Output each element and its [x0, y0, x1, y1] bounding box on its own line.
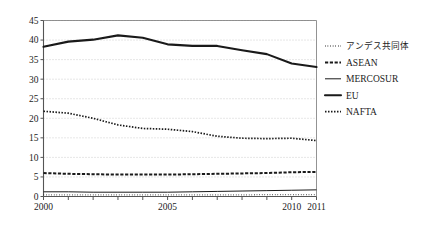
- legend-label: EU: [346, 91, 359, 101]
- legend-label: アンデス共同体: [346, 40, 409, 51]
- legend-label: MERCOSUR: [346, 74, 399, 84]
- y-tick-label: 45: [29, 16, 39, 26]
- series-line-nafta: [44, 111, 317, 140]
- series-line-mercosur: [44, 190, 317, 192]
- y-tick-label: 15: [29, 133, 39, 143]
- x-tick-label: 2000: [34, 202, 53, 212]
- legend-label: NAFTA: [346, 107, 377, 117]
- chart-figure: 0510152025303540452000200520102011アンデス共同…: [0, 0, 432, 235]
- y-tick-label: 35: [29, 55, 39, 65]
- x-axis: 2000200520102011: [34, 197, 326, 212]
- x-tick-label: 2005: [158, 202, 177, 212]
- series-line-asean: [44, 172, 317, 175]
- y-tick-label: 0: [34, 192, 39, 202]
- y-tick-label: 30: [29, 75, 39, 85]
- legend: アンデス共同体ASEANMERCOSUREUNAFTA: [325, 40, 409, 117]
- y-tick-label: 25: [29, 94, 39, 104]
- x-tick-label: 2010: [282, 202, 301, 212]
- series-group: [44, 35, 317, 195]
- y-tick-label: 10: [29, 153, 39, 163]
- grid-lines: [44, 21, 317, 177]
- y-tick-label: 20: [29, 114, 39, 124]
- series-line-eu: [44, 35, 317, 67]
- y-tick-label: 40: [29, 35, 39, 45]
- y-axis: 051015202530354045: [29, 16, 44, 202]
- y-tick-label: 5: [34, 172, 39, 182]
- x-tick-label: 2011: [307, 202, 326, 212]
- plot-frame: [44, 21, 317, 197]
- line-chart: 0510152025303540452000200520102011アンデス共同…: [0, 0, 432, 235]
- legend-label: ASEAN: [346, 58, 378, 68]
